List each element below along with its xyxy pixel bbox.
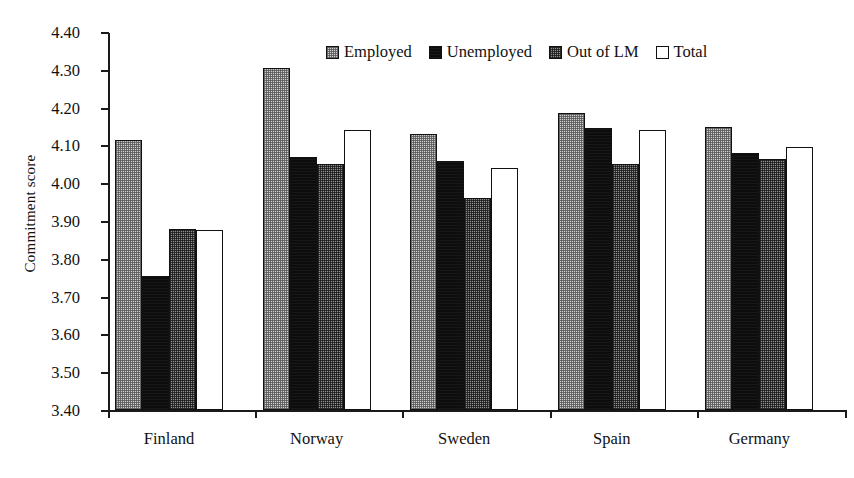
chart-legend: EmployedUnemployedOut of LMTotal xyxy=(326,44,707,61)
bar-finland-out-of-lm xyxy=(169,229,196,410)
legend-label: Out of LM xyxy=(567,44,639,61)
x-axis-tick xyxy=(845,410,847,418)
bar-sweden-total xyxy=(491,168,518,410)
bar-norway-unemployed xyxy=(290,157,317,410)
x-axis-tick xyxy=(697,410,699,418)
bar-germany-unemployed xyxy=(732,153,759,410)
legend-label: Total xyxy=(674,44,708,61)
y-axis-tick xyxy=(101,334,109,336)
bar-sweden-out-of-lm xyxy=(464,198,491,410)
bar-spain-unemployed xyxy=(585,128,612,410)
bar-germany-employed xyxy=(705,127,732,411)
y-axis-tick-label: 3.60 xyxy=(24,327,80,344)
bar-spain-total xyxy=(639,130,666,410)
bar-norway-total xyxy=(344,130,371,410)
y-axis-tick xyxy=(101,32,109,34)
bar-finland-employed xyxy=(115,140,142,410)
y-axis-tick-label: 3.80 xyxy=(24,252,80,269)
chart-figure: Commitment score 4.404.304.204.104.003.9… xyxy=(0,0,854,478)
x-axis-tick xyxy=(255,410,257,418)
y-axis-tick xyxy=(101,372,109,374)
y-axis-tick-label: 4.40 xyxy=(24,25,80,42)
y-axis-tick-label: 4.10 xyxy=(24,138,80,155)
x-axis-label-spain: Spain xyxy=(593,429,631,449)
legend-swatch-total-icon xyxy=(656,46,669,59)
legend-label: Employed xyxy=(344,44,412,61)
y-axis-tick-label: 3.90 xyxy=(24,214,80,231)
x-axis-tick xyxy=(402,410,404,418)
y-axis-tick-label: 3.40 xyxy=(24,403,80,420)
x-axis-label-norway: Norway xyxy=(290,429,343,449)
y-axis-tick-label: 4.00 xyxy=(24,176,80,193)
legend-item-out-of-lm[interactable]: Out of LM xyxy=(549,44,639,61)
y-axis-tick xyxy=(101,108,109,110)
plot-area: 4.404.304.204.104.003.903.803.703.603.50… xyxy=(108,33,846,411)
y-axis-tick-label: 3.50 xyxy=(24,365,80,382)
bar-finland-total xyxy=(196,230,223,410)
y-axis-tick xyxy=(101,145,109,147)
x-axis-label-sweden: Sweden xyxy=(438,429,490,449)
x-axis-label-germany: Germany xyxy=(729,429,790,449)
y-axis-tick xyxy=(101,297,109,299)
bar-sweden-unemployed xyxy=(437,161,464,410)
legend-swatch-unemployed-icon xyxy=(429,46,442,59)
y-axis-tick-label: 4.30 xyxy=(24,63,80,80)
x-axis-tick xyxy=(108,410,110,418)
y-axis-tick xyxy=(101,259,109,261)
bar-finland-unemployed xyxy=(142,276,169,410)
y-axis-tick xyxy=(101,70,109,72)
legend-item-total[interactable]: Total xyxy=(656,44,708,61)
x-axis-tick xyxy=(550,410,552,418)
legend-swatch-out-of-lm-icon xyxy=(549,46,562,59)
y-axis-tick xyxy=(101,221,109,223)
y-axis-tick-label: 4.20 xyxy=(24,101,80,118)
legend-swatch-employed-icon xyxy=(326,46,339,59)
x-axis-line xyxy=(108,410,846,412)
y-axis-tick xyxy=(101,183,109,185)
y-axis-tick-label: 3.70 xyxy=(24,290,80,307)
legend-item-unemployed[interactable]: Unemployed xyxy=(429,44,532,61)
legend-item-employed[interactable]: Employed xyxy=(326,44,412,61)
bar-germany-out-of-lm xyxy=(759,159,786,410)
bar-germany-total xyxy=(786,147,813,410)
bar-spain-employed xyxy=(558,113,585,410)
bar-norway-out-of-lm xyxy=(317,164,344,410)
bar-sweden-employed xyxy=(410,134,437,410)
bar-norway-employed xyxy=(263,68,290,410)
bar-spain-out-of-lm xyxy=(612,164,639,410)
legend-label: Unemployed xyxy=(447,44,532,61)
x-axis-label-finland: Finland xyxy=(144,429,194,449)
